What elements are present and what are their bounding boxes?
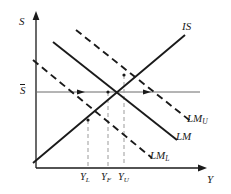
x-tick-label-yl-base: Y: [80, 171, 86, 182]
equilibrium-point-lower: [86, 118, 89, 121]
marker-on-lm-u-icon: [143, 90, 151, 95]
curve-label-lm-l-sub: L: [165, 154, 169, 163]
y-axis-label: S: [19, 16, 25, 27]
x-axis-arrowhead: [198, 165, 207, 172]
curve-label-lm-u-sub: U: [202, 117, 207, 126]
x-tick-label-yl: YL: [80, 172, 90, 183]
x-tick-label-yu-sub: U: [124, 176, 129, 184]
curve-label-is: IS: [182, 21, 191, 32]
curve-label-lm-l-base: LM: [150, 149, 165, 161]
curve-lm-l: [33, 60, 152, 158]
x-tick-label-yu-base: Y: [118, 171, 124, 182]
x-tick-label-yf-sub: F: [107, 176, 111, 184]
is-lm-figure: S Y S IS LMU LM LML YL YF YU: [0, 0, 231, 194]
x-axis-label: Y: [207, 174, 213, 185]
x-tick-label-yl-sub: L: [86, 176, 90, 184]
curve-label-lm-u: LMU: [187, 113, 208, 124]
y-axis-arrowhead: [33, 11, 40, 20]
curve-label-lm-u-base: LM: [187, 112, 202, 124]
equilibrium-point-full: [106, 90, 109, 93]
equilibrium-points-group: [86, 73, 125, 121]
curve-label-lm-l: LML: [150, 150, 169, 161]
s-bar-label: S: [20, 85, 26, 96]
lm-l-line: [33, 60, 152, 158]
s-bar-label-text: S: [20, 85, 26, 96]
marker-on-lm-l-icon: [77, 90, 85, 95]
curve-label-lm: LM: [176, 131, 191, 142]
axis-group: [33, 11, 207, 171]
x-tick-label-yu: YU: [118, 172, 129, 183]
equilibrium-point-upper: [122, 73, 125, 76]
x-tick-label-yf: YF: [101, 172, 111, 183]
x-tick-label-yf-base: Y: [101, 171, 107, 182]
is-lm-chart-canvas: [0, 0, 231, 194]
